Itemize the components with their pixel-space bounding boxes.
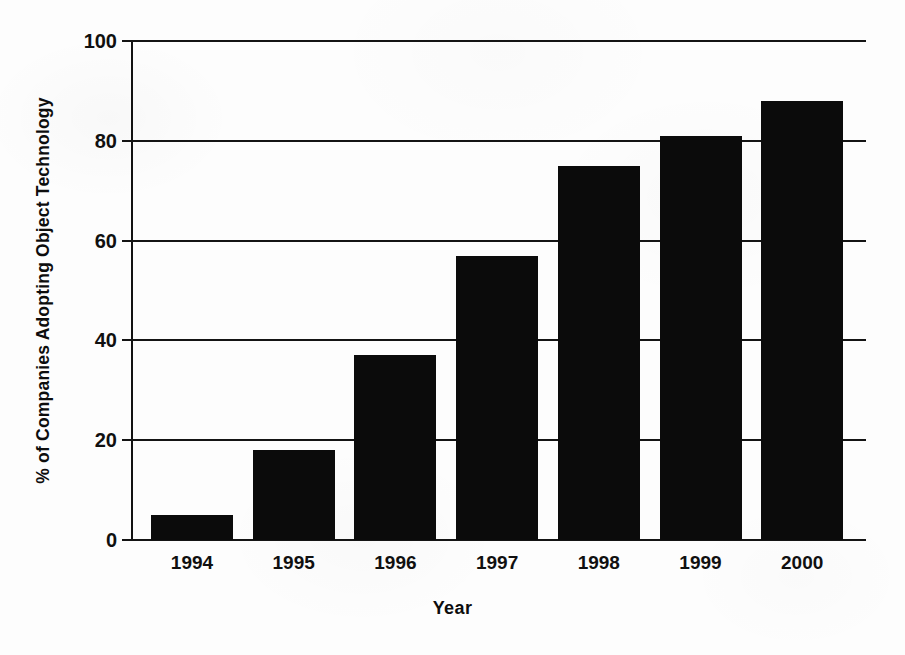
y-tick-label-40: 40 — [47, 329, 117, 352]
y-tick-label-100: 100 — [47, 30, 117, 53]
y-tick-label-60: 60 — [47, 229, 117, 252]
x-tick-label-1998: 1998 — [544, 552, 654, 574]
y-axis-title: % of Companies Adopting Object Technolog… — [30, 41, 56, 540]
y-tick-label-0: 0 — [47, 529, 117, 552]
y-tick-left-20 — [122, 439, 131, 441]
bar-chart: % of Companies Adopting Object Technolog… — [0, 0, 905, 655]
x-tick-label-2000: 2000 — [747, 552, 857, 574]
y-tick-label-20: 20 — [47, 429, 117, 452]
y-tick-left-0 — [122, 539, 131, 541]
y-tick-left-60 — [122, 240, 131, 242]
y-axis-line — [131, 41, 133, 540]
bar-1996 — [354, 355, 436, 540]
y-tick-mark-20 — [843, 439, 866, 441]
y-tick-left-80 — [122, 140, 131, 142]
bar-1999 — [660, 136, 742, 540]
gridline-100 — [131, 40, 866, 42]
bar-1997 — [456, 256, 538, 540]
x-tick-label-1996: 1996 — [340, 552, 450, 574]
bar-1994 — [151, 515, 233, 540]
bar-2000 — [761, 101, 843, 540]
x-tick-label-1995: 1995 — [239, 552, 349, 574]
x-tick-label-1999: 1999 — [646, 552, 756, 574]
y-tick-left-100 — [122, 40, 131, 42]
bar-1998 — [558, 166, 640, 540]
bar-1995 — [253, 450, 335, 540]
y-tick-left-40 — [122, 339, 131, 341]
plot-area — [131, 41, 843, 540]
x-tick-label-1994: 1994 — [137, 552, 247, 574]
y-tick-label-80: 80 — [47, 129, 117, 152]
y-tick-mark-40 — [843, 339, 866, 341]
x-tick-label-1997: 1997 — [442, 552, 552, 574]
y-tick-mark-80 — [843, 140, 866, 142]
y-tick-mark-60 — [843, 240, 866, 242]
x-axis-title: Year — [0, 598, 905, 619]
